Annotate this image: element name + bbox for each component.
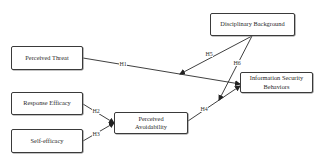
edge-h1 (83, 58, 240, 84)
node-self-efficacy: Self-efficacy (11, 129, 83, 153)
node-information-security-behaviors: Information Security Behaviors (240, 72, 313, 93)
node-label-line1: Perceived (138, 115, 163, 123)
node-label-line1: Information Security (250, 74, 303, 82)
label-h5: H5 (205, 51, 213, 57)
edge-h5 (180, 36, 252, 74)
node-label: Perceived Threat (25, 54, 68, 62)
node-perceived-avoidability: Perceived Avoidability (114, 112, 188, 134)
label-h3: H3 (92, 131, 100, 137)
node-label-line2: Behaviors (264, 83, 290, 91)
node-response-efficacy: Response Efficacy (11, 92, 83, 115)
node-label: Disciplinary Background (220, 20, 284, 28)
label-h4: H4 (200, 106, 208, 112)
node-label-line2: Avoidability (135, 123, 167, 131)
label-h2: H2 (92, 108, 100, 114)
node-perceived-threat: Perceived Threat (11, 46, 83, 70)
node-disciplinary-background: Disciplinary Background (210, 13, 295, 36)
edge-h4 (188, 86, 240, 121)
label-h6: H6 (233, 60, 241, 66)
node-label: Response Efficacy (23, 99, 71, 107)
node-label: Self-efficacy (31, 137, 64, 145)
label-h1: H1 (119, 61, 127, 67)
